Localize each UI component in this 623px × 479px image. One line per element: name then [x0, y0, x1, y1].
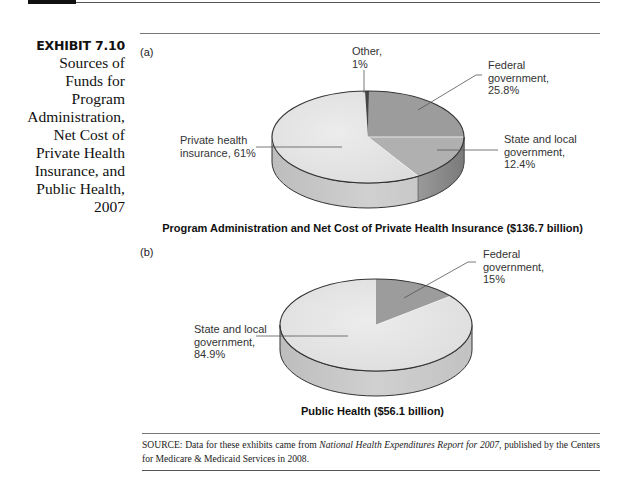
pie-a-label-state: State and local government, 12.4%	[504, 133, 577, 171]
pie-b-label-state: State and local government, 84.9%	[194, 323, 267, 361]
source-top-rule	[142, 433, 600, 434]
source-prefix: SOURCE: Data for these exhibits came fro…	[142, 439, 319, 450]
pie-a-label-private: Private health insurance, 61%	[180, 134, 256, 159]
pie-a-label-federal: Federal government, 25.8%	[488, 59, 549, 97]
pie-b-label-federal: Federal government, 15%	[483, 248, 544, 286]
source-report-title: National Health Expenditures Report for …	[319, 439, 499, 450]
source-bottom-rule	[142, 470, 600, 471]
pie-b	[256, 262, 476, 396]
pie-a-title: Program Administration and Net Cost of P…	[140, 222, 605, 234]
pie-a	[256, 70, 498, 208]
source-note: SOURCE: Data for these exhibits came fro…	[142, 438, 600, 466]
pie-a-label-other: Other, 1%	[352, 45, 382, 70]
pie-b-title: Public Health ($56.1 billion)	[140, 405, 605, 417]
